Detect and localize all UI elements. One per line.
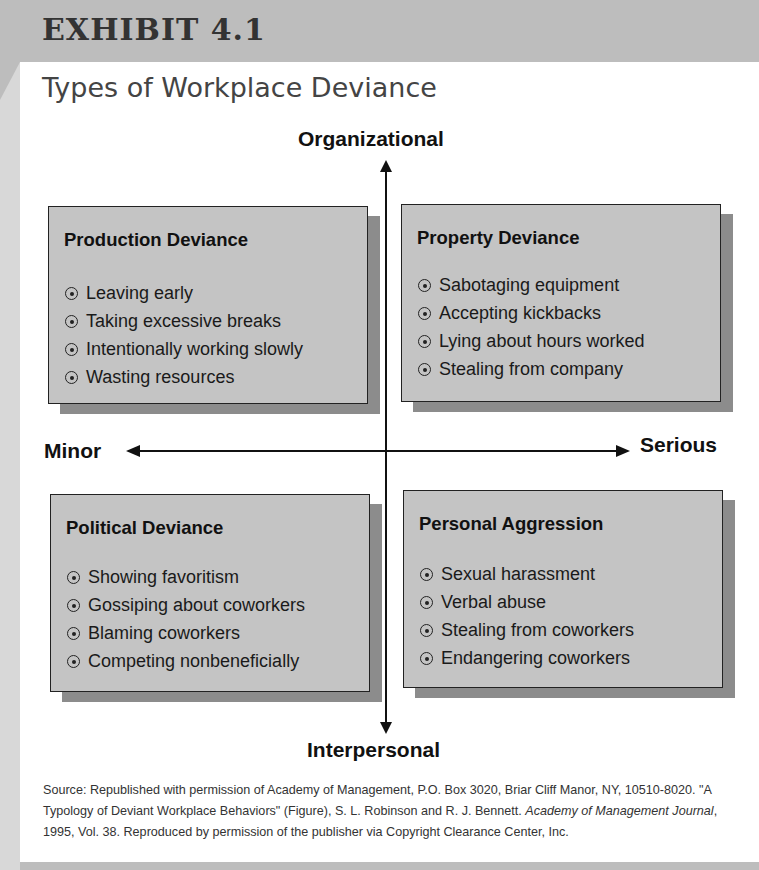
list-item: Blaming coworkers: [67, 619, 305, 647]
list-item: Leaving early: [65, 279, 303, 307]
list-item: Stealing from company: [418, 355, 644, 383]
quadrant-title: Political Deviance: [66, 517, 223, 539]
bullet-icon: [65, 315, 78, 328]
axis-label-right: Serious: [640, 433, 717, 457]
bullet-icon: [418, 279, 431, 292]
quadrant-personal-aggression: Personal Aggression Sexual harassment Ve…: [403, 490, 723, 688]
axis-label-left: Minor: [44, 439, 101, 463]
vertical-axis-line: [385, 168, 387, 726]
list-item: Taking excessive breaks: [65, 307, 303, 335]
bullet-icon: [65, 343, 78, 356]
bullet-icon: [67, 571, 80, 584]
page-title: Types of Workplace Deviance: [42, 72, 437, 103]
item-list: Leaving early Taking excessive breaks In…: [65, 279, 303, 391]
bullet-icon: [420, 568, 433, 581]
bullet-icon: [420, 624, 433, 637]
arrow-down-icon: [380, 722, 392, 734]
quadrant-title: Property Deviance: [417, 227, 579, 249]
arrow-right-icon: [616, 445, 630, 457]
list-item: Accepting kickbacks: [418, 299, 644, 327]
quadrant-political-deviance: Political Deviance Showing favoritism Go…: [50, 494, 370, 692]
list-item: Intentionally working slowly: [65, 335, 303, 363]
list-item: Wasting resources: [65, 363, 303, 391]
quadrant-title: Production Deviance: [64, 229, 248, 251]
bullet-icon: [65, 287, 78, 300]
quadrant-property-deviance: Property Deviance Sabotaging equipment A…: [401, 204, 721, 402]
quadrant-title: Personal Aggression: [419, 513, 603, 535]
axis-label-bottom: Interpersonal: [307, 738, 440, 762]
item-list: Sexual harassment Verbal abuse Stealing …: [420, 560, 634, 672]
list-item: Stealing from coworkers: [420, 616, 634, 644]
item-list: Sabotaging equipment Accepting kickbacks…: [418, 271, 644, 383]
quadrant-production-deviance: Production Deviance Leaving early Taking…: [48, 206, 368, 404]
list-item: Competing nonbeneficially: [67, 647, 305, 675]
axis-label-top: Organizational: [298, 127, 444, 151]
bullet-icon: [65, 371, 78, 384]
bullet-icon: [67, 655, 80, 668]
bullet-icon: [420, 652, 433, 665]
exhibit-label: EXHIBIT 4.1: [42, 12, 266, 47]
arrow-left-icon: [126, 445, 140, 457]
horizontal-axis-line: [130, 450, 622, 452]
list-item: Sexual harassment: [420, 560, 634, 588]
bullet-icon: [418, 307, 431, 320]
source-note: Source: Republished with permission of A…: [43, 780, 733, 843]
list-item: Showing favoritism: [67, 563, 305, 591]
list-item: Sabotaging equipment: [418, 271, 644, 299]
list-item: Endangering coworkers: [420, 644, 634, 672]
bullet-icon: [67, 599, 80, 612]
left-band: [0, 62, 20, 870]
bullet-icon: [67, 627, 80, 640]
bullet-icon: [420, 596, 433, 609]
left-wedge: [0, 62, 20, 100]
bottom-band: [20, 862, 759, 870]
list-item: Gossiping about coworkers: [67, 591, 305, 619]
bullet-icon: [418, 335, 431, 348]
list-item: Lying about hours worked: [418, 327, 644, 355]
item-list: Showing favoritism Gossiping about cowor…: [67, 563, 305, 675]
bullet-icon: [418, 363, 431, 376]
arrow-up-icon: [380, 160, 392, 172]
list-item: Verbal abuse: [420, 588, 634, 616]
